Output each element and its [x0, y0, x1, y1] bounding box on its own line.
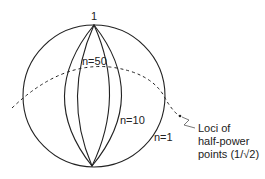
half-power-loci-dashed	[12, 67, 179, 116]
curve-label-n50: n=50	[82, 55, 107, 68]
annotation-line-2: half-power	[198, 135, 249, 148]
top-point-label: 1	[91, 10, 97, 23]
lens-n10	[64, 25, 121, 166]
curve-label-n10: n=10	[120, 114, 145, 127]
lens-n50	[77, 25, 109, 166]
annotation-leader-squiggle	[182, 117, 195, 128]
outer-circle-n1	[23, 25, 165, 167]
annotation-line-1: Loci of	[198, 122, 230, 135]
loci-endpoint-dot	[179, 115, 182, 118]
curve-label-n1: n=1	[154, 131, 173, 144]
annotation-line-3: points (1/√2)	[198, 148, 259, 161]
